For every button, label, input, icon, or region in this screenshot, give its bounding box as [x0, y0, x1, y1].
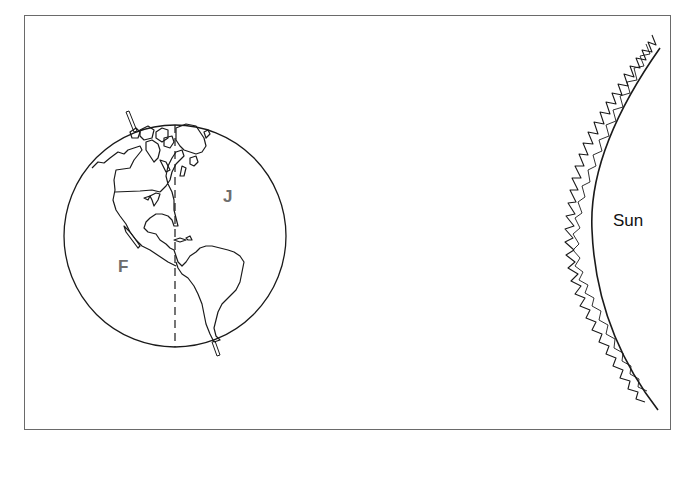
region-label-west: F	[118, 258, 128, 275]
earth-axis	[126, 111, 220, 356]
region-label-east: J	[223, 188, 232, 205]
diagram-canvas	[0, 0, 693, 480]
sun-label: Sun	[613, 212, 643, 229]
north-america-outline	[92, 124, 210, 266]
south-america-outline	[174, 246, 244, 342]
